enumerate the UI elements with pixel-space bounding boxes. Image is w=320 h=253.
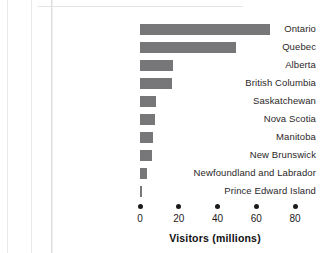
bar-track xyxy=(140,128,320,146)
bar-chart: OntarioQuebecAlbertaBritish ColumbiaSask… xyxy=(0,0,320,253)
bar xyxy=(140,114,155,125)
bar-row: Alberta xyxy=(0,56,320,74)
tick-dot-icon xyxy=(138,204,143,209)
bar xyxy=(140,168,147,179)
tick-dot-icon xyxy=(176,204,181,209)
bar xyxy=(140,60,173,71)
bar-track xyxy=(140,20,320,38)
bar-row: Saskatchewan xyxy=(0,92,320,110)
bar-track xyxy=(140,74,320,92)
tick-dot-icon xyxy=(215,204,220,209)
tick-label: 20 xyxy=(165,213,193,224)
bar xyxy=(140,186,142,197)
bar xyxy=(140,132,153,143)
bar-row: Nova Scotia xyxy=(0,110,320,128)
bar-track xyxy=(140,182,320,200)
bar-row: Ontario xyxy=(0,20,320,38)
bar-row: Manitoba xyxy=(0,128,320,146)
bar-row: Newfoundland and Labrador xyxy=(0,164,320,182)
bar-track xyxy=(140,56,320,74)
bar-row: British Columbia xyxy=(0,74,320,92)
tick-label: 40 xyxy=(204,213,232,224)
bar-track xyxy=(140,38,320,56)
bar-row: Quebec xyxy=(0,38,320,56)
tick-dot-icon xyxy=(293,204,298,209)
bar xyxy=(140,96,156,107)
bar-track xyxy=(140,146,320,164)
bar xyxy=(140,150,152,161)
bar-track xyxy=(140,110,320,128)
tick-dot-icon xyxy=(254,204,259,209)
tick-label: 0 xyxy=(126,213,154,224)
x-axis-title: Visitors (millions) xyxy=(120,232,310,244)
tick-label: 60 xyxy=(242,213,270,224)
tick-label: 80 xyxy=(281,213,309,224)
bar-track xyxy=(140,164,320,182)
bar xyxy=(140,42,236,53)
bar-track xyxy=(140,92,320,110)
bar xyxy=(140,24,270,35)
bar-row: New Brunswick xyxy=(0,146,320,164)
bar xyxy=(140,78,172,89)
bar-row: Prince Edward Island xyxy=(0,182,320,200)
